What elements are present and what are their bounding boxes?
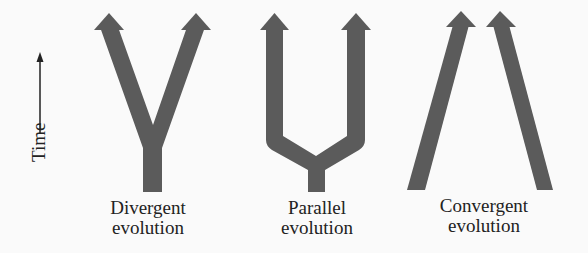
convergent-label-line2: evolution [419, 216, 549, 236]
divergent-label-line2: evolution [88, 218, 208, 238]
divergent-evolution-arrows-icon [94, 13, 211, 192]
convergent-evolution-arrows-icon [407, 11, 553, 190]
convergent-label-line1: Convergent [419, 196, 549, 216]
parallel-label-line2: evolution [257, 218, 377, 238]
divergent-label-line1: Divergent [88, 198, 208, 218]
convergent-evolution-label: Convergent evolution [419, 196, 549, 236]
parallel-evolution-label: Parallel evolution [257, 198, 377, 238]
divergent-evolution-label: Divergent evolution [88, 198, 208, 238]
parallel-label-line1: Parallel [257, 198, 377, 218]
time-axis-label: Time [28, 123, 50, 162]
parallel-evolution-arrows-icon [260, 13, 371, 192]
